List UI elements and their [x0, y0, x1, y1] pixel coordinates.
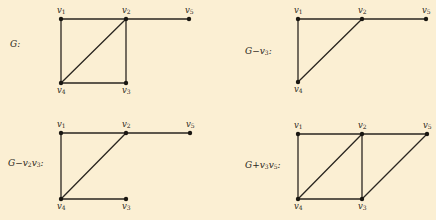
vertex-label-v4: v4 — [294, 202, 303, 211]
vertex-subscript: 1 — [62, 122, 66, 129]
graph-panel-g-v3 — [296, 17, 428, 84]
vertex-label-v1: v1 — [57, 120, 66, 129]
vertex-v2 — [124, 131, 128, 135]
vertex-v2 — [360, 132, 364, 136]
vertex-label-v2: v2 — [122, 120, 131, 129]
vertex-v1 — [296, 132, 300, 136]
vertex-v5 — [424, 17, 428, 21]
vertex-subscript: 5 — [427, 8, 431, 15]
vertex-subscript: 5 — [428, 123, 432, 130]
vertex-v5 — [188, 131, 192, 135]
vertex-label-v1: v1 — [57, 6, 66, 15]
vertex-subscript: 3 — [127, 204, 131, 211]
panel-label-part: G−v — [245, 46, 265, 56]
vertex-label-v1: v1 — [294, 121, 303, 130]
vertex-v1 — [59, 17, 63, 21]
vertex-label-v4: v4 — [294, 85, 303, 94]
vertex-label-v1: v1 — [294, 6, 303, 15]
vertex-subscript: 1 — [299, 123, 303, 130]
panel-label-part: G−v — [8, 158, 28, 168]
graph-drawing — [0, 0, 436, 220]
vertex-label-v2: v2 — [358, 121, 367, 130]
edge-v2-v4 — [298, 19, 362, 82]
graph-panel-g-v3v5 — [296, 132, 429, 201]
vertex-v5 — [425, 132, 429, 136]
panel-label-g-v3: G−v3: — [245, 47, 272, 56]
panel-label-part: G: — [10, 39, 20, 49]
vertex-v2 — [124, 17, 128, 21]
vertex-subscript: 5 — [190, 8, 194, 15]
panel-label-part: : — [269, 46, 272, 56]
vertex-subscript: 3 — [363, 204, 367, 211]
panel-label-part: G+v — [245, 160, 265, 170]
vertex-v1 — [296, 17, 300, 21]
edge-v3-v5 — [362, 134, 427, 199]
vertex-subscript: 4 — [62, 204, 66, 211]
vertex-subscript: 1 — [62, 8, 66, 15]
vertex-subscript: 4 — [62, 88, 66, 95]
edge-v2-v4 — [61, 19, 126, 83]
vertex-label-v5: v5 — [422, 6, 431, 15]
vertex-v5 — [187, 17, 191, 21]
panel-label-g-v2v3: G−v2v3: — [8, 159, 44, 168]
vertex-v1 — [59, 131, 63, 135]
vertex-label-v5: v5 — [423, 121, 432, 130]
vertex-subscript: 3 — [127, 88, 131, 95]
vertex-subscript: 2 — [127, 122, 131, 129]
graph-panel-g — [59, 17, 191, 85]
graph-panel-g-v2v3 — [59, 131, 192, 201]
panel-label-g-v3v5: G+v3v5: — [245, 161, 281, 170]
vertex-label-v5: v5 — [185, 6, 194, 15]
vertex-subscript: 2 — [127, 8, 131, 15]
panel-label-g: G: — [10, 40, 20, 49]
vertex-label-v2: v2 — [122, 6, 131, 15]
vertex-label-v3: v3 — [122, 202, 131, 211]
graph-operations-figure: v1v2v5v4v3G:v1v2v5v4G−v3:v1v2v5v4v3G−v2v… — [0, 0, 436, 220]
vertex-subscript: 5 — [191, 122, 195, 129]
vertex-label-v3: v3 — [358, 202, 367, 211]
vertex-subscript: 4 — [299, 204, 303, 211]
edge-v2-v4 — [61, 133, 126, 199]
vertex-subscript: 2 — [363, 123, 367, 130]
vertex-subscript: 1 — [299, 8, 303, 15]
vertex-label-v4: v4 — [57, 86, 66, 95]
vertex-label-v4: v4 — [57, 202, 66, 211]
edge-v2-v4 — [298, 134, 362, 199]
panel-label-part: : — [278, 160, 281, 170]
vertex-label-v2: v2 — [358, 6, 367, 15]
vertex-subscript: 4 — [299, 87, 303, 94]
vertex-label-v3: v3 — [122, 86, 131, 95]
vertex-subscript: 2 — [363, 8, 367, 15]
vertex-label-v5: v5 — [186, 120, 195, 129]
panel-label-part: : — [41, 158, 44, 168]
vertex-v2 — [360, 17, 364, 21]
